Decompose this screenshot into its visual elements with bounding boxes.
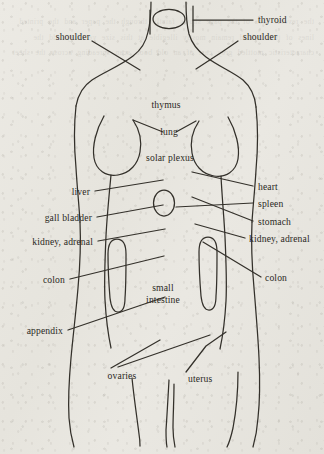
label-lung: lung xyxy=(160,126,178,137)
label-uterus: uterus xyxy=(188,373,212,384)
neck-right-contour xyxy=(186,2,256,107)
left-torso-lower xyxy=(69,222,81,447)
leader-uterus xyxy=(186,332,226,372)
leader-ovaries-a xyxy=(111,340,160,368)
label-kidney-adrenal-left: kidney, adrenal xyxy=(32,236,93,247)
inner-leg-line-a xyxy=(166,380,169,447)
label-colon-left: colon xyxy=(43,274,65,285)
leader-colon-left xyxy=(70,256,164,279)
label-liver: liver xyxy=(72,186,90,197)
right-torso-lower xyxy=(252,222,260,447)
label-stomach: stomach xyxy=(258,216,291,227)
label-small-intestine-line2: intestine xyxy=(146,294,180,305)
label-appendix: appendix xyxy=(27,325,63,336)
label-shoulder-right: shoulder xyxy=(243,31,277,42)
left-breast-contour xyxy=(93,116,140,175)
right-abdomen-line xyxy=(220,176,226,349)
label-thymus: thymus xyxy=(151,99,180,110)
colon-left-shape xyxy=(108,239,126,312)
leader-kidney-adrenal-left xyxy=(98,229,165,241)
leader-liver xyxy=(95,180,163,191)
anatomy-figure-page: the reverse side of the page shows faint… xyxy=(0,0,324,454)
right-breast-contour xyxy=(191,117,238,176)
label-colon-right: colon xyxy=(265,272,287,283)
label-ovaries: ovaries xyxy=(108,370,137,381)
leader-kidney-adrenal-right xyxy=(195,224,245,238)
left-leg-line xyxy=(132,378,140,446)
label-solar-plexus: solar plexus xyxy=(146,152,194,163)
label-kidney-adrenal-right: kidney, adrenal xyxy=(249,233,310,244)
label-small-intestine: small intestine xyxy=(135,282,191,305)
label-heart: heart xyxy=(258,181,278,192)
leader-ovaries-b xyxy=(118,335,210,367)
label-gall-bladder: gall bladder xyxy=(45,212,92,223)
torso-line-art xyxy=(0,0,324,454)
colon-right-shape xyxy=(199,237,217,310)
label-spleen: spleen xyxy=(258,198,283,209)
leader-gall-bladder xyxy=(97,205,163,217)
leader-lung-right xyxy=(176,121,196,132)
inner-leg-line-b xyxy=(173,384,175,447)
left-torso-upper xyxy=(75,106,81,222)
label-thyroid: thyroid xyxy=(258,14,287,25)
right-leg-line xyxy=(227,372,238,447)
right-torso-upper xyxy=(252,107,258,222)
leader-lung-left xyxy=(133,120,163,132)
navel-shape xyxy=(154,190,175,216)
leader-heart xyxy=(192,172,253,186)
thyroid-organ-shape xyxy=(153,10,185,29)
label-shoulder-left: shoulder xyxy=(56,31,90,42)
label-small-intestine-line1: small xyxy=(152,282,174,293)
torso-diagram: shoulder thyroid shoulder thymus lung so… xyxy=(0,0,324,454)
